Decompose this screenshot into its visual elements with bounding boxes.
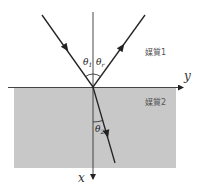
incident-angle-arc	[86, 74, 94, 77]
reflected-ray	[93, 15, 145, 87]
refraction-diagram: θ1 θr θ2 媒質1 媒質2 y x	[0, 0, 200, 191]
reflected-angle-label: θr	[96, 57, 105, 68]
reflected-arrow-icon	[117, 42, 127, 53]
y-axis-label: y	[183, 69, 191, 83]
medium-1-label: 媒質1	[145, 47, 166, 57]
medium-2-label: 媒質2	[145, 97, 166, 107]
x-axis-label: x	[78, 171, 85, 185]
reflected-angle-arc	[93, 74, 101, 77]
incident-angle-label: θ1	[83, 57, 92, 68]
